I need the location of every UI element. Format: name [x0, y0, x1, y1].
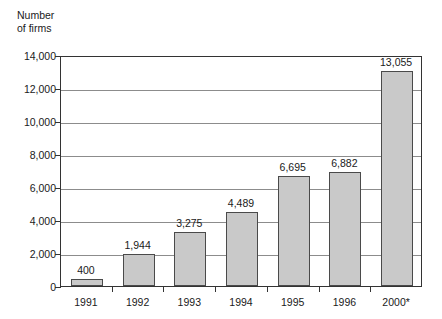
- bar: [226, 212, 258, 286]
- bar-value-label: 400: [56, 265, 116, 276]
- bar-value-label: 3,275: [159, 218, 219, 229]
- x-axis-tick-mark: [163, 287, 164, 292]
- gridline: [61, 123, 421, 124]
- bar-chart: Number of firms 02,0004,0006,0008,00010,…: [0, 0, 442, 319]
- bar: [123, 254, 155, 286]
- bar: [71, 279, 103, 286]
- y-axis-title: Number of firms: [17, 9, 54, 35]
- x-axis-tick-mark: [267, 287, 268, 292]
- bar-value-label: 6,882: [314, 158, 374, 169]
- bar-value-label: 13,055: [366, 57, 426, 68]
- bar: [381, 71, 413, 286]
- x-axis-tick-mark: [370, 287, 371, 292]
- x-axis-tick-mark: [319, 287, 320, 292]
- x-axis-tick-label: 2000*: [366, 297, 426, 308]
- bar-value-label: 4,489: [211, 198, 271, 209]
- x-axis-tick-mark: [215, 287, 216, 292]
- gridline: [61, 90, 421, 91]
- plot-area: [60, 56, 422, 287]
- x-axis-tick-mark: [112, 287, 113, 292]
- gridline: [61, 156, 421, 157]
- bar: [174, 232, 206, 286]
- bar: [278, 176, 310, 287]
- x-axis: 1991199219931994199519962000*: [60, 287, 422, 319]
- y-axis-tick-marks: [0, 56, 62, 287]
- bar-value-label: 1,944: [108, 240, 168, 251]
- bar: [329, 172, 361, 286]
- gridline: [61, 189, 421, 190]
